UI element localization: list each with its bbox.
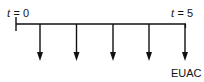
end-time-label: t = 5 bbox=[171, 7, 193, 19]
arrow-down-icon bbox=[182, 52, 188, 61]
arrow-down-icon bbox=[37, 52, 43, 61]
cash-flow-arrows bbox=[37, 24, 188, 61]
start-time-label: t = 0 bbox=[7, 7, 29, 19]
arrow-down-icon bbox=[74, 52, 80, 61]
cash-flow-diagram: t = 0 t = 5 EUAC bbox=[0, 0, 204, 82]
time-axis bbox=[16, 17, 186, 31]
arrow-down-icon bbox=[146, 52, 152, 61]
arrow-down-icon bbox=[110, 52, 116, 61]
euac-label: EUAC bbox=[171, 67, 202, 79]
